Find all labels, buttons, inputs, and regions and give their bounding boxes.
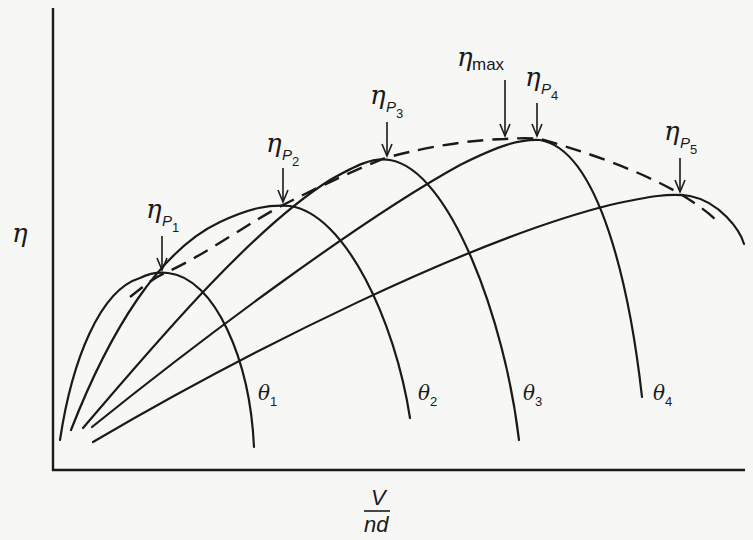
svg-text:1: 1 xyxy=(270,394,277,409)
svg-text:5: 5 xyxy=(690,142,697,157)
label-eta-p1: η P 1 xyxy=(146,194,179,235)
label-eta-p3: η P 3 xyxy=(370,80,403,121)
svg-text:P: P xyxy=(386,98,396,115)
label-eta-p4: η P 4 xyxy=(525,62,558,103)
label-theta-2: θ 2 xyxy=(418,381,437,409)
label-theta-1: θ 1 xyxy=(258,381,277,409)
arrow-eta-p3 xyxy=(382,122,392,156)
svg-text:2: 2 xyxy=(292,154,299,169)
svg-text:η: η xyxy=(664,116,680,146)
curve-theta-2 xyxy=(71,206,410,430)
x-axis-label: V nd xyxy=(364,485,390,537)
label-theta-3: θ 3 xyxy=(523,381,542,409)
svg-text:3: 3 xyxy=(396,106,403,121)
svg-text:P: P xyxy=(680,134,690,151)
svg-text:2: 2 xyxy=(430,394,437,409)
svg-text:V: V xyxy=(371,485,388,510)
svg-text:η: η xyxy=(457,42,473,72)
efficiency-chart: η P 1 η P 2 η P 3 η max η P 4 η P 5 θ 1 … xyxy=(0,0,753,540)
svg-text:P: P xyxy=(541,80,551,97)
svg-text:η: η xyxy=(525,62,541,92)
svg-text:max: max xyxy=(472,55,505,74)
svg-text:4: 4 xyxy=(551,88,558,103)
svg-text:1: 1 xyxy=(172,220,179,235)
arrow-eta-p5 xyxy=(675,158,685,192)
svg-text:η: η xyxy=(266,128,282,158)
svg-text:θ: θ xyxy=(523,381,535,405)
y-axis-label: η xyxy=(12,218,28,248)
label-eta-p2: η P 2 xyxy=(266,128,299,169)
arrow-eta-p4 xyxy=(532,103,542,136)
label-theta-4: θ 4 xyxy=(653,381,672,409)
svg-text:η: η xyxy=(146,194,162,224)
svg-text:η: η xyxy=(370,80,386,110)
svg-text:θ: θ xyxy=(418,381,430,405)
svg-text:nd: nd xyxy=(364,512,389,537)
svg-text:θ: θ xyxy=(653,381,665,405)
svg-text:4: 4 xyxy=(665,394,672,409)
svg-text:3: 3 xyxy=(535,394,542,409)
svg-text:θ: θ xyxy=(258,381,270,405)
svg-text:P: P xyxy=(162,212,172,229)
label-eta-p5: η P 5 xyxy=(664,116,697,157)
arrow-eta-max xyxy=(500,80,510,136)
arrow-eta-p2 xyxy=(278,168,288,202)
svg-text:P: P xyxy=(282,146,292,163)
label-eta-max: η max xyxy=(457,42,505,74)
